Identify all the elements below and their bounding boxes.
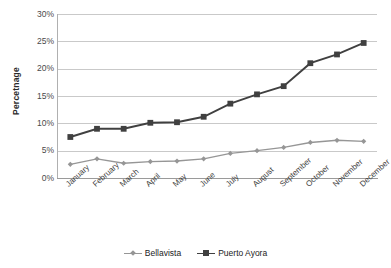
data-point (361, 40, 367, 46)
data-point (254, 148, 259, 153)
data-point (94, 156, 99, 161)
series-layer (0, 0, 391, 268)
data-point (308, 140, 313, 145)
data-point (121, 161, 126, 166)
series-bellavista (68, 138, 367, 167)
data-point (94, 126, 100, 132)
data-point (201, 114, 207, 120)
data-point (148, 159, 153, 164)
data-point (334, 52, 340, 58)
data-point (281, 145, 286, 150)
series-puerto-ayora (67, 40, 366, 140)
data-point (227, 101, 233, 107)
data-point (281, 83, 287, 89)
legend-label: Puerto Ayora (218, 248, 267, 258)
data-point (201, 156, 206, 161)
series-line (70, 43, 363, 137)
data-point (228, 151, 233, 156)
data-point (68, 162, 73, 167)
data-point (121, 126, 127, 132)
legend-swatch-icon (124, 249, 142, 258)
data-point (67, 134, 73, 140)
data-point (254, 91, 260, 97)
legend-item[interactable]: Puerto Ayora (197, 248, 267, 258)
legend-label: Bellavista (145, 248, 181, 258)
data-point (361, 139, 366, 144)
data-point (147, 120, 153, 126)
legend: BellavistaPuerto Ayora (0, 245, 391, 261)
data-point (174, 119, 180, 125)
data-point (307, 60, 313, 66)
legend-swatch-icon (197, 249, 215, 258)
data-point (334, 138, 339, 143)
line-chart: Percetnage 30%25%20%15%10%5%0% JanuaryFe… (0, 0, 391, 268)
legend-item[interactable]: Bellavista (124, 248, 181, 258)
data-point (174, 158, 179, 163)
series-line (70, 140, 363, 164)
